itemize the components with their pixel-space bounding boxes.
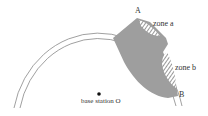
zone-b-label: zone b	[175, 64, 196, 72]
base-station-label: base station O	[81, 98, 121, 105]
base-station-dot	[97, 92, 101, 96]
point-a-label: A	[135, 7, 141, 15]
point-b-label: B	[179, 91, 184, 99]
zone-a-label: zone a	[153, 20, 174, 28]
